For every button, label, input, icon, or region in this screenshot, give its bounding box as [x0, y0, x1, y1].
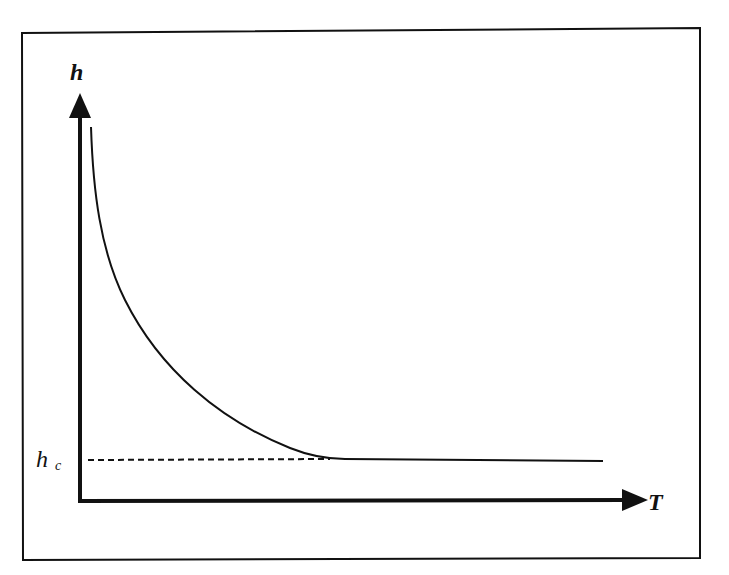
y-axis-label: h — [70, 59, 83, 85]
h-curve — [91, 127, 603, 461]
x-axis — [79, 500, 625, 501]
x-axis-label: T — [648, 489, 664, 515]
x-axis-arrow-icon — [622, 489, 648, 511]
hc-label-main: h — [36, 446, 48, 472]
figure-frame — [22, 28, 700, 560]
y-axis-arrow-icon — [69, 93, 91, 118]
figure: h T h c — [0, 0, 729, 575]
hc-label-sub: c — [55, 458, 62, 473]
hc-reference-line — [88, 459, 330, 460]
